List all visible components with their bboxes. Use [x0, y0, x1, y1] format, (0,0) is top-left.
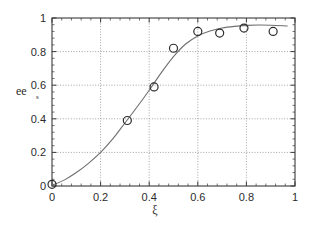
chart-figure: 00.20.40.60.81 00.20.40.60.81 ξ ee s	[0, 0, 311, 225]
x-tick-label: 0.4	[142, 191, 157, 203]
x-tick-label: 0.8	[239, 191, 254, 203]
scatter-plot: 00.20.40.60.81 00.20.40.60.81 ξ ee s	[0, 0, 311, 225]
y-tick-label: 0.2	[31, 146, 46, 158]
y-tick-label: 0.6	[31, 79, 46, 91]
y-axis-title-subscript: s	[36, 93, 39, 101]
y-tick-label: 0.8	[31, 46, 46, 58]
x-tick-label: 0.2	[93, 191, 108, 203]
y-axis-title-base: ee	[16, 84, 27, 98]
x-tick-label: 0.6	[190, 191, 205, 203]
y-tick-label: 1	[40, 12, 46, 24]
x-tick-label: 0	[49, 191, 55, 203]
y-tick-label: 0	[40, 180, 46, 192]
y-tick-label: 0.4	[31, 113, 46, 125]
x-axis-title: ξ	[152, 203, 158, 217]
x-tick-label: 1	[292, 191, 298, 203]
